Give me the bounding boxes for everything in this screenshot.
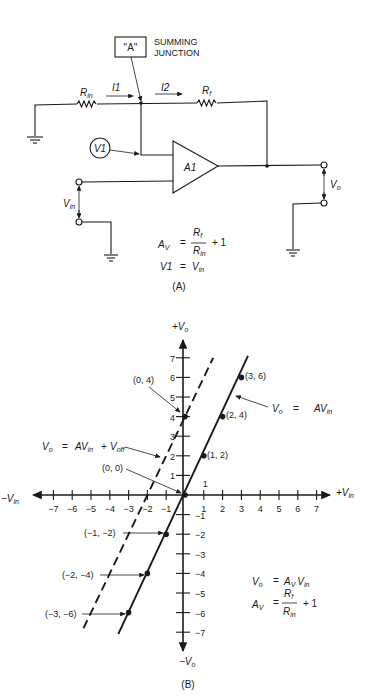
- x-tick-label: 1: [203, 479, 208, 489]
- svg-text:Vo: Vo: [42, 441, 53, 453]
- y-tick-label: 7: [170, 354, 175, 364]
- svg-text:Vo: Vo: [252, 576, 263, 588]
- y-tick-label: 6: [170, 373, 175, 383]
- noninverting-input-wire: [82, 181, 173, 182]
- point-label-neg1-neg2: (−1, −2): [84, 528, 116, 538]
- svg-text:Rf: Rf: [284, 588, 294, 600]
- svg-text:=: =: [273, 575, 279, 586]
- y-tick-label: −5: [195, 589, 205, 599]
- point-label-0-4: (0, 4): [133, 375, 154, 385]
- y-axis-label-negative: −Vo: [179, 656, 196, 668]
- y-tick-label: 5: [170, 393, 175, 403]
- x-tick-label: 6: [295, 504, 300, 514]
- vo-label: Vo: [330, 179, 341, 191]
- data-point: [239, 375, 245, 381]
- svg-text:=: =: [180, 237, 186, 248]
- x-axis-label-negative: −Vin: [1, 493, 19, 505]
- data-point: [163, 531, 169, 537]
- vo-ground: [286, 203, 321, 256]
- svg-text:+ 1: + 1: [303, 598, 318, 609]
- resistor-rf: [197, 100, 216, 106]
- x-tick-label: 7: [314, 504, 319, 514]
- point-label-neg2-neg4: (−2, −4): [62, 570, 94, 580]
- svg-text:AVVin: AVVin: [283, 576, 310, 588]
- x-tick-label: −5: [86, 504, 96, 514]
- vin-terminal-top: [76, 179, 82, 185]
- svg-text:V1: V1: [160, 261, 172, 272]
- output-wire: [218, 165, 321, 166]
- v1-arrow: [110, 150, 139, 154]
- x-tick-label: −4: [105, 504, 115, 514]
- data-point: [126, 610, 132, 616]
- vo-terminal-top: [321, 162, 327, 168]
- y-tick-label: 1: [170, 471, 175, 481]
- leader-0-4: [149, 387, 180, 412]
- x-tick-label: −6: [67, 504, 77, 514]
- i2-label: I2: [161, 82, 170, 93]
- junction-pointer-arrow: [131, 57, 141, 101]
- junction-label: JUNCTION: [154, 48, 200, 58]
- x-tick-label: 3: [239, 504, 244, 514]
- point-label-0-0: (0, 0): [102, 463, 123, 473]
- point-label-1-2: (1, 2): [207, 450, 228, 460]
- resistor-rin: [77, 101, 96, 107]
- vin-terminal-bottom: [76, 219, 82, 225]
- y-tick-label: −2: [195, 530, 205, 540]
- svg-text:=: =: [293, 403, 299, 414]
- circuit-diagram: "A" SUMMING JUNCTION Rin Rf I1 I2 V1 A1: [27, 37, 341, 292]
- svg-text:Rin: Rin: [193, 245, 206, 257]
- svg-text:AV: AV: [251, 599, 265, 611]
- svg-text:Voff: Voff: [110, 441, 126, 453]
- x-tick-label: −3: [123, 504, 133, 514]
- x-tick-label: 5: [276, 504, 281, 514]
- svg-text:+ 1: + 1: [212, 237, 227, 248]
- y-tick-label: −7: [195, 628, 205, 638]
- x-tick-label: 2: [220, 504, 225, 514]
- v1-equation: V1 = Vin: [160, 261, 204, 273]
- svg-text:AVin: AVin: [313, 403, 332, 415]
- rf-label: Rf: [202, 85, 212, 97]
- solid-line-label: Vo = AVin: [236, 396, 332, 415]
- caption-a: (A): [172, 281, 185, 292]
- junction-wire: [97, 103, 197, 104]
- y-tick-label: −1: [195, 511, 205, 521]
- x-tick-label: 4: [258, 504, 263, 514]
- v1-label: V1: [94, 143, 106, 154]
- i1-label: I1: [112, 82, 120, 93]
- svg-text:Vin: Vin: [192, 261, 204, 273]
- x-tick-label: −7: [48, 504, 58, 514]
- point-label-neg3-neg6: (−3, −6): [45, 609, 77, 619]
- x-axis-label-positive: +Vin: [336, 487, 354, 499]
- y-tick-label: −4: [195, 569, 205, 579]
- svg-text:+: +: [101, 441, 107, 452]
- a1-label: A1: [183, 162, 196, 173]
- data-point: [201, 453, 207, 459]
- data-point: [182, 492, 188, 498]
- y-axis-ticks: −7−6−5−4−3−2−11234567: [170, 354, 205, 638]
- data-point: [145, 571, 151, 577]
- vo-terminal-bottom: [321, 200, 327, 206]
- caption-b: (B): [181, 679, 194, 690]
- dashed-line-label: Vo = AVin + Voff: [42, 441, 160, 457]
- x-tick-label: −1: [161, 504, 171, 514]
- svg-text:AVin: AVin: [74, 441, 93, 453]
- feedback-wire: [217, 101, 267, 166]
- gain-equation-b: AV = Rf Rin + 1: [251, 588, 318, 618]
- svg-text:AV: AV: [157, 239, 171, 251]
- junction-box-label: "A": [124, 42, 138, 53]
- svg-text:Vo: Vo: [272, 403, 283, 415]
- gain-equation-a: AV = Rf Rin + 1: [157, 227, 227, 257]
- rin-label: Rin: [80, 87, 93, 99]
- y-axis-label-positive: +Vo: [172, 321, 189, 333]
- summing-label: SUMMING: [154, 37, 198, 47]
- y-tick-label: 4: [170, 413, 175, 423]
- left-ground-wire: [27, 104, 77, 143]
- inverting-input-wire: [141, 103, 173, 155]
- y-tick-label: 2: [170, 452, 175, 462]
- svg-text:=: =: [273, 597, 279, 608]
- svg-text:Rf: Rf: [193, 227, 203, 239]
- y-tick-label: −3: [195, 550, 205, 560]
- output-node: [265, 164, 269, 168]
- svg-text:=: =: [180, 261, 186, 272]
- data-point: [220, 414, 226, 420]
